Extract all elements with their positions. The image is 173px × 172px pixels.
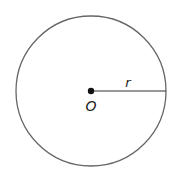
- center-point: [88, 88, 94, 94]
- radius-label: r: [125, 75, 132, 90]
- center-label: O: [85, 98, 96, 114]
- circle-diagram: r O: [0, 0, 173, 172]
